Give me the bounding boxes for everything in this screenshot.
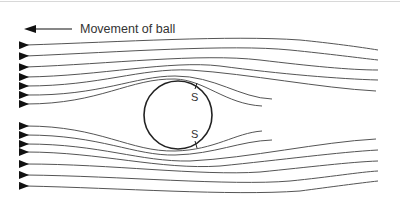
streamline [26, 76, 272, 99]
streamline [26, 135, 272, 155]
separation-label: S [191, 128, 198, 140]
streamline [26, 139, 376, 161]
ball [144, 81, 212, 149]
streamline [26, 58, 378, 70]
separation-label: S [191, 91, 198, 103]
legend-label: Movement of ball [80, 22, 175, 36]
streamline [26, 79, 262, 106]
legend: Movement of ball [34, 22, 175, 36]
streamline [26, 181, 378, 193]
streamline [26, 70, 376, 91]
streamline [26, 171, 378, 182]
airflow-diagram: Movement of ball S S [0, 0, 400, 210]
